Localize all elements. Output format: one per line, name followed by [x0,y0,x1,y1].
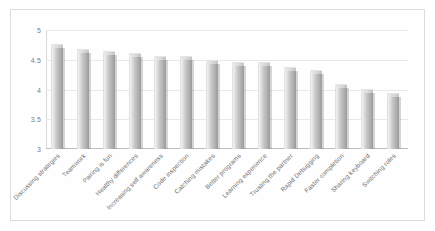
bar [258,62,270,149]
bar [335,84,347,149]
bar [284,67,296,149]
y-axis-tick-label: 4 [37,86,41,93]
x-label-slot: Switching roles [383,151,409,221]
y-axis-tick-label: 4.5 [31,56,41,63]
bar-slot [99,30,125,149]
x-label-slot: Discussing strategies [47,151,73,221]
plot-area: 33.544.55 [46,30,408,149]
bars-group [46,30,408,149]
bar-slot [228,30,254,149]
bar-slot [73,30,99,149]
bar-slot [176,30,202,149]
y-axis-tick-label: 3 [37,146,41,153]
bar [310,70,322,149]
bar [77,49,89,149]
y-axis-tick-label: 5 [37,27,41,34]
bar-slot [254,30,280,149]
bar-slot [383,30,409,149]
bar-slot [125,30,151,149]
bar-slot [202,30,228,149]
x-axis-category-labels: Discussing strategiesTeamworkPairing is … [46,151,408,221]
x-label-slot: Sharing keyboard [357,151,383,221]
bar [103,51,115,149]
bar [206,60,218,149]
bar-slot [357,30,383,149]
x-label-slot: Teamwork [73,151,99,221]
bar [232,62,244,149]
bar [361,89,373,150]
bar-slot [306,30,332,149]
bar-slot [331,30,357,149]
bar-slot [150,30,176,149]
bar-slot [280,30,306,149]
bar-chart-figure: 33.544.55 Discussing strategiesTeamworkP… [0,0,435,231]
bar [387,93,399,149]
bar [154,56,166,149]
bar-slot [47,30,73,149]
bar [180,56,192,149]
bar [51,44,63,149]
bar [129,53,141,149]
y-axis-tick-label: 3.5 [31,116,41,123]
